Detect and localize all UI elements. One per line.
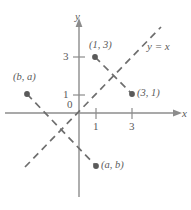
- y-axis: [76, 18, 83, 197]
- x-axis-label: x: [182, 108, 187, 119]
- y-tick-label-3: 3: [63, 51, 69, 62]
- line-y-equals-x-label: y = x: [147, 41, 170, 52]
- x-axis: [5, 110, 182, 117]
- y-axis-label: y: [75, 11, 80, 22]
- x-tick-label-3: 3: [129, 121, 135, 132]
- point-b-a-label: (b, a): [13, 72, 36, 83]
- point-a-b-marker: [93, 163, 99, 169]
- point-a-b-label: (a, b): [101, 160, 124, 171]
- point-1-3-label: (1, 3): [89, 40, 112, 51]
- point-3-1-label: (3, 1): [137, 88, 160, 99]
- origin-label: 0: [67, 99, 73, 110]
- x-tick-label-1: 1: [93, 121, 99, 132]
- graph-canvas: [0, 0, 191, 210]
- coordinate-plane-figure: y x 0 3 1 1 3 (1, 3) (3, 1) (b, a) (a, b…: [0, 0, 191, 210]
- point-1-3-marker: [92, 54, 98, 60]
- point-b-a-marker: [24, 91, 30, 97]
- point-3-1-marker: [129, 91, 135, 97]
- y-tick-label-1: 1: [63, 89, 69, 100]
